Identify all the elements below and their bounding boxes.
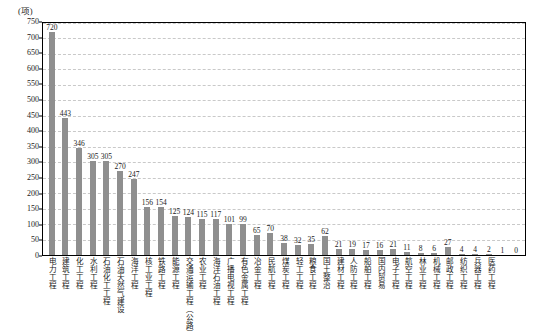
bar[interactable]: 16	[377, 250, 383, 255]
bar-value-label: 154	[155, 199, 166, 207]
bar[interactable]: 27	[445, 247, 451, 255]
x-label-slot: 铁路工程	[154, 257, 168, 334]
y-tick-mark	[39, 224, 42, 225]
bar-slot: 38	[277, 23, 291, 255]
bar-value-label: 4	[460, 246, 464, 254]
bar[interactable]: 156	[144, 207, 150, 255]
bar[interactable]: 35	[308, 244, 314, 255]
x-label-slot: 医药工程	[483, 257, 497, 334]
bar-slot: 21	[386, 23, 400, 255]
bar-value-label: 270	[114, 163, 125, 171]
y-axis-unit-label: (项)	[18, 6, 33, 16]
bar-value-label: 4	[473, 246, 477, 254]
bar-slot: 1	[496, 23, 510, 255]
x-label-slot: 国土整治	[318, 257, 332, 334]
bar-value-label: 6	[432, 245, 436, 253]
y-tick-mark	[39, 22, 42, 23]
y-tick-mark	[39, 99, 42, 100]
x-label-slot: 人防工程	[346, 257, 360, 334]
bar[interactable]: 6	[431, 253, 437, 255]
bar[interactable]: 8	[418, 253, 424, 255]
bar[interactable]: 101	[226, 224, 232, 255]
x-axis-tick-label: 广播电视工程	[225, 257, 233, 305]
x-label-slot: 电子工程	[387, 257, 401, 334]
x-axis-tick-label: 邮政工程	[445, 257, 453, 289]
bar-slot: 125	[168, 23, 182, 255]
bar-slot: 305	[86, 23, 100, 255]
bar[interactable]: 19	[349, 249, 355, 255]
bar[interactable]: 720	[49, 32, 55, 255]
y-tick-mark	[39, 162, 42, 163]
bar-slot: 247	[127, 23, 141, 255]
x-label-slot: 石油化工工程	[99, 257, 113, 334]
x-axis-labels: 电力工程建筑工程化工工程水利工程石油化工工程石油天然气建设海洋工程核工业工程铁路…	[42, 257, 526, 334]
x-label-slot: 交通运输工程（公路）	[181, 257, 195, 334]
bar[interactable]: 115	[199, 219, 205, 255]
bar[interactable]: 32	[295, 245, 301, 255]
x-axis-tick-label: 船舶工程	[362, 257, 370, 289]
bar[interactable]: 305	[103, 161, 109, 255]
x-axis-tick-label: 核工业工程	[143, 257, 151, 297]
x-axis-tick-label: 纺织工程	[458, 257, 466, 289]
bar-value-label: 305	[101, 153, 112, 161]
x-axis-tick-label: 铁路工程	[156, 257, 164, 289]
bar[interactable]: 270	[117, 171, 123, 255]
y-tick-mark	[39, 84, 42, 85]
bar-value-label: 443	[60, 110, 71, 118]
bar-value-label: 117	[210, 211, 221, 219]
y-tick-mark	[39, 115, 42, 116]
x-axis-tick-label: 化工工程	[74, 257, 82, 289]
bar[interactable]: 11	[404, 252, 410, 255]
x-axis-tick-label: 建材工程	[335, 257, 343, 289]
x-axis-tick-label: 电子工程	[390, 257, 398, 289]
bar[interactable]: 99	[240, 224, 246, 255]
bar-slot: 270	[113, 23, 127, 255]
plot-area: 7204433463053052702471561541251241151171…	[42, 22, 526, 256]
bar[interactable]: 117	[213, 219, 219, 255]
bar[interactable]: 38	[281, 243, 287, 255]
bar-slot: 117	[209, 23, 223, 255]
bar-slot: 443	[59, 23, 73, 255]
bar[interactable]: 124	[185, 217, 191, 255]
bar[interactable]: 305	[90, 161, 96, 255]
y-tick-mark	[39, 146, 42, 147]
bar[interactable]: 21	[390, 249, 396, 255]
y-tick-mark	[39, 240, 42, 241]
bar-value-label: 19	[349, 241, 357, 249]
y-tick-mark	[39, 177, 42, 178]
y-tick-label: 150	[27, 205, 39, 213]
x-axis-tick-label: 电力工程	[47, 257, 55, 289]
bar[interactable]: 154	[158, 207, 164, 255]
bar[interactable]: 70	[267, 233, 273, 255]
bar[interactable]: 443	[62, 118, 68, 255]
bar-value-label: 38	[280, 235, 288, 243]
bar[interactable]: 62	[322, 236, 328, 255]
x-label-slot	[510, 257, 524, 334]
bar[interactable]: 17	[363, 250, 369, 255]
gridline	[43, 255, 525, 256]
bar-slot: 11	[400, 23, 414, 255]
plot-wrapper: 7204433463053052702471561541251241151171…	[42, 22, 526, 256]
bar[interactable]: 65	[254, 235, 260, 255]
bar[interactable]: 247	[131, 179, 137, 255]
y-tick-label: 250	[27, 174, 39, 182]
bar[interactable]: 125	[172, 216, 178, 255]
y-tick-label: 450	[27, 112, 39, 120]
bar[interactable]: 346	[76, 148, 82, 255]
x-axis-tick-label: 航空工程	[403, 257, 411, 289]
bar[interactable]: 2	[486, 254, 492, 255]
bar[interactable]: 4	[472, 254, 478, 255]
x-label-slot: 邮政工程	[442, 257, 456, 334]
x-label-slot: 兵器工程	[469, 257, 483, 334]
bar[interactable]: 21	[336, 249, 342, 255]
bar-value-label: 1	[501, 247, 505, 255]
bar-slot: 27	[441, 23, 455, 255]
bar-value-label: 101	[224, 216, 235, 224]
bar[interactable]: 4	[459, 254, 465, 255]
y-tick-label: 350	[27, 143, 39, 151]
bar-slot: 2	[482, 23, 496, 255]
x-axis-tick-label: 医药工程	[486, 257, 494, 289]
x-label-slot: 机械工程	[428, 257, 442, 334]
bar-slot: 101	[223, 23, 237, 255]
x-label-slot: 建筑工程	[58, 257, 72, 334]
